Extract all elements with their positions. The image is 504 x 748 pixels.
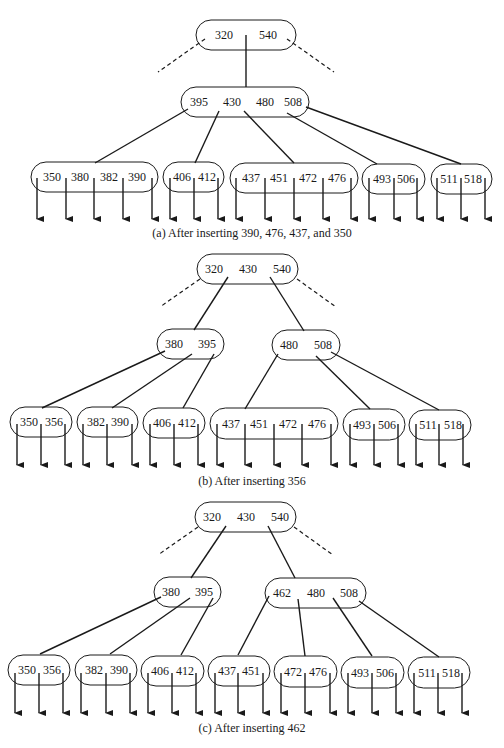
leaf-node: 350356 <box>8 655 70 713</box>
tree-edge <box>95 109 188 163</box>
panel-caption: (a) After inserting 390, 476, 437, and 3… <box>152 226 351 240</box>
node-key: 380 <box>71 170 89 184</box>
tree-edge <box>268 526 295 578</box>
node-key: 382 <box>85 663 103 677</box>
node-key: 412 <box>176 664 194 678</box>
node-key: 430 <box>239 262 257 276</box>
omitted-subtree-edge <box>160 279 200 307</box>
node-key: 380 <box>162 585 180 599</box>
tree-edge <box>316 356 370 409</box>
tree-edge <box>40 597 161 654</box>
leaf-node: 493506 <box>362 164 425 219</box>
node-key: 350 <box>43 170 61 184</box>
tree-edge <box>245 354 278 409</box>
node-key: 320 <box>205 262 223 276</box>
node-key: 437 <box>218 664 236 678</box>
node-key: 382 <box>100 170 118 184</box>
node-key: 540 <box>273 262 291 276</box>
omitted-subtree-edge <box>287 39 334 72</box>
node-key: 412 <box>198 170 216 184</box>
node-key: 508 <box>284 95 302 109</box>
node-key: 511 <box>418 666 436 680</box>
node-key: 350 <box>20 415 38 429</box>
tree-edge <box>194 277 228 330</box>
tree-edge <box>183 354 214 408</box>
node-key: 451 <box>270 171 288 185</box>
node-key: 476 <box>309 665 327 679</box>
node-key: 476 <box>328 171 346 185</box>
tree-edge <box>112 354 192 408</box>
tree-edge <box>110 598 190 654</box>
node-key: 437 <box>242 171 260 185</box>
node-key: 476 <box>308 417 326 431</box>
node-key: 518 <box>442 666 460 680</box>
leaf-node: 511518 <box>409 410 471 465</box>
leaf-node: 493506 <box>341 657 404 713</box>
bplus-tree-insertion-figure: 3205403954304805083503803823904064124374… <box>0 0 504 748</box>
node-key: 462 <box>273 586 291 600</box>
node-key: 356 <box>43 663 61 677</box>
node-key: 350 <box>18 663 36 677</box>
node-key: 493 <box>353 418 371 432</box>
leaf-node: 493506 <box>343 409 405 465</box>
tree-edge <box>287 113 377 164</box>
node-key: 508 <box>314 338 332 352</box>
leaf-node: 511518 <box>408 657 470 713</box>
node-key: 437 <box>222 417 240 431</box>
internal-node: 462480508 <box>265 578 366 608</box>
node-key: 395 <box>195 585 213 599</box>
root-node: 320430540 <box>197 254 298 284</box>
tree-edge <box>42 351 165 408</box>
leaf-node: 406412 <box>163 162 224 219</box>
leaf-node: 382390 <box>75 655 137 713</box>
tree-edge <box>270 277 304 331</box>
node-key: 430 <box>237 510 255 524</box>
node-key: 430 <box>223 95 241 109</box>
leaf-node: 406412 <box>141 656 204 713</box>
node-key: 511 <box>419 418 437 432</box>
tree-edge <box>191 526 226 578</box>
internal-node: 480508 <box>272 330 340 360</box>
node-key: 493 <box>351 666 369 680</box>
panel-b-tree: 3204305403803954805083503563823904064124… <box>10 254 471 488</box>
node-key: 390 <box>128 170 146 184</box>
panel-caption: (c) After inserting 462 <box>199 721 306 735</box>
panel-c-tree: 3204305403803954624805083503563823904064… <box>8 502 470 735</box>
panel-a-tree: 3205403954304805083503803823904064124374… <box>31 20 492 240</box>
node-key: 480 <box>280 338 298 352</box>
tree-edge <box>331 352 439 410</box>
node-key: 380 <box>165 337 183 351</box>
node-key: 406 <box>153 416 171 430</box>
node-key: 493 <box>373 172 391 186</box>
tree-edge <box>238 596 269 655</box>
node-key: 320 <box>215 28 233 42</box>
omitted-subtree-edge <box>294 527 333 555</box>
node-key: 451 <box>242 664 260 678</box>
tree-edge <box>306 107 461 164</box>
panel-caption: (b) After inserting 356 <box>198 474 306 488</box>
node-key: 451 <box>250 417 268 431</box>
node-key: 390 <box>110 663 128 677</box>
node-key: 320 <box>203 510 221 524</box>
leaf-node: 437451 <box>208 656 270 713</box>
tree-edge <box>195 111 219 163</box>
omitted-subtree-edge <box>158 39 205 72</box>
node-key: 382 <box>87 415 105 429</box>
node-key: 406 <box>173 170 191 184</box>
node-key: 506 <box>397 172 415 186</box>
leaf-node: 350380382390 <box>31 162 158 219</box>
node-key: 506 <box>376 666 394 680</box>
node-key: 472 <box>279 417 297 431</box>
node-key: 540 <box>271 510 289 524</box>
node-key: 412 <box>178 416 196 430</box>
node-key: 511 <box>440 172 458 186</box>
node-key: 518 <box>464 172 482 186</box>
leaf-node: 437451472476 <box>230 163 358 219</box>
node-key: 390 <box>111 415 129 429</box>
node-key: 395 <box>190 95 208 109</box>
leaf-node: 382390 <box>77 407 138 465</box>
node-key: 508 <box>340 586 358 600</box>
node-key: 506 <box>378 418 396 432</box>
omitted-subtree-edge <box>297 279 336 307</box>
node-key: 518 <box>444 418 462 432</box>
